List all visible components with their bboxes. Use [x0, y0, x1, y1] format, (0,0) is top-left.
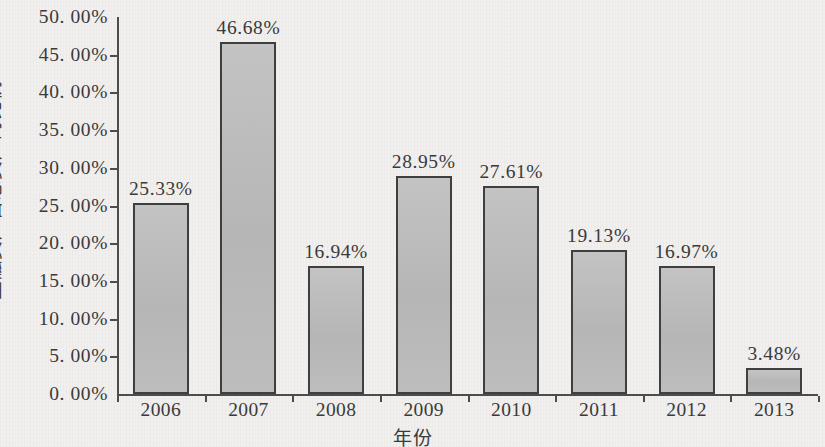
x-axis-tick-label: 2006	[141, 399, 182, 421]
bar-value-label: 16.97%	[655, 241, 719, 263]
bar-value-label: 3.48%	[748, 343, 801, 365]
y-axis-tick-label: 40. 00%	[39, 81, 108, 103]
bar: 28.95%	[396, 176, 452, 394]
y-axis-tick-mark	[110, 168, 117, 170]
bar: 46.68%	[220, 42, 276, 394]
bar: 16.97%	[659, 266, 715, 394]
y-axis-line	[117, 17, 119, 396]
y-axis-tick-mark	[110, 356, 117, 358]
y-axis-tick-label: 25. 00%	[39, 195, 108, 217]
y-axis-tick-label: 0. 00%	[49, 383, 108, 405]
x-axis-tick-label: 2012	[666, 399, 707, 421]
y-axis-tick-mark	[110, 281, 117, 283]
y-axis-tick-mark	[110, 243, 117, 245]
x-axis-tick-mark	[643, 396, 645, 402]
bar-value-label: 16.94%	[304, 241, 368, 263]
x-axis-tick-label: 2009	[403, 399, 444, 421]
y-axis-tick-label: 15. 00%	[39, 270, 108, 292]
bar-value-label: 19.13%	[567, 225, 631, 247]
y-axis-tick-label: 50. 00%	[39, 6, 108, 28]
bar-value-label: 46.68%	[217, 17, 281, 39]
x-axis-tick-mark	[818, 396, 820, 402]
y-axis-tick-label: 30. 00%	[39, 157, 108, 179]
y-axis-tick-mark	[110, 55, 117, 57]
bar-value-label: 27.61%	[479, 161, 543, 183]
bar: 16.94%	[308, 266, 364, 394]
bar: 19.13%	[571, 250, 627, 394]
y-axis-tick-label: 45. 00%	[39, 44, 108, 66]
x-axis-tick-label: 2007	[228, 399, 269, 421]
bar-value-label: 28.95%	[392, 151, 456, 173]
x-axis-title: 年份	[0, 423, 825, 447]
x-axis-tick-mark	[117, 396, 119, 402]
bar: 3.48%	[746, 368, 802, 394]
x-axis-tick-mark	[555, 396, 557, 402]
x-axis-tick-label: 2010	[491, 399, 532, 421]
x-axis-tick-mark	[380, 396, 382, 402]
x-axis-tick-label: 2013	[754, 399, 795, 421]
y-axis-tick-mark	[110, 130, 117, 132]
plot-area: 0. 00%5. 00%10. 00%15. 00%20. 00%25. 00%…	[117, 17, 818, 396]
x-axis-tick-label: 2008	[316, 399, 357, 421]
x-axis-tick-mark	[468, 396, 470, 402]
y-axis-tick-label: 20. 00%	[39, 232, 108, 254]
y-axis-tick-label: 10. 00%	[39, 308, 108, 330]
bar-value-label: 25.33%	[129, 178, 193, 200]
y-axis-tick-mark	[110, 206, 117, 208]
y-axis-tick-mark	[110, 319, 117, 321]
y-axis-tick-label: 5. 00%	[49, 345, 108, 367]
bar-chart: 金融资产占总资产的比例 0. 00%5. 00%10. 00%15. 00%20…	[0, 0, 825, 447]
y-axis-tick-mark	[110, 92, 117, 94]
x-axis-tick-mark	[730, 396, 732, 402]
x-axis-tick-mark	[292, 396, 294, 402]
y-axis-tick-label: 35. 00%	[39, 119, 108, 141]
bar: 25.33%	[133, 203, 189, 394]
x-axis-tick-mark	[205, 396, 207, 402]
y-axis-title: 金融资产占总资产的比例	[0, 80, 5, 300]
bar: 27.61%	[483, 186, 539, 394]
x-axis-tick-label: 2011	[579, 399, 619, 421]
